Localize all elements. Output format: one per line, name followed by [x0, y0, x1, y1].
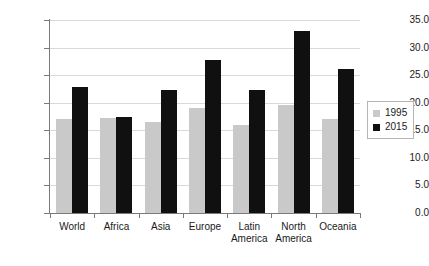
x-axis-category-label: Oceania — [316, 221, 360, 233]
x-axis-category-label-line: Europe — [183, 221, 227, 233]
x-tick-mark — [139, 213, 140, 218]
x-axis-category-label: World — [50, 221, 94, 233]
bar-2015-latin-america — [249, 90, 265, 213]
x-axis-category-label-line: Africa — [94, 221, 138, 233]
legend-item-1995: 1995 — [373, 106, 407, 120]
bar-2015-europe — [205, 60, 221, 213]
legend: 19952015 — [367, 101, 414, 139]
x-axis-category-label: Asia — [139, 221, 183, 233]
x-tick-mark — [50, 213, 51, 218]
x-tick-mark — [227, 213, 228, 218]
x-axis-category-label-line: World — [50, 221, 94, 233]
legend-swatch-icon — [373, 124, 380, 131]
bar-2015-asia — [161, 90, 177, 213]
bar-1995-asia — [145, 122, 161, 213]
legend-label: 1995 — [385, 108, 407, 118]
y-axis-tick-label: 35.0 — [387, 15, 429, 25]
x-axis-category-label-line: Oceania — [316, 221, 360, 233]
x-axis-category-label: NorthAmerica — [271, 221, 315, 245]
x-axis-category-label-line: America — [227, 233, 271, 245]
x-axis-category-label: LatinAmerica — [227, 221, 271, 245]
legend-swatch-icon — [373, 110, 380, 117]
x-axis-line — [49, 213, 361, 214]
y-axis-tick-label: 25.0 — [387, 70, 429, 80]
x-axis-category-label-line: Asia — [139, 221, 183, 233]
x-axis-category-label-line: North — [271, 221, 315, 233]
x-tick-mark — [94, 213, 95, 218]
bars — [50, 20, 360, 213]
y-axis-tick-label: 10.0 — [387, 153, 429, 163]
x-axis-category-label: Africa — [94, 221, 138, 233]
legend-label: 2015 — [385, 122, 407, 132]
x-tick-mark — [360, 213, 361, 218]
x-axis-category-label: Europe — [183, 221, 227, 233]
x-axis-category-label-line: America — [271, 233, 315, 245]
bar-2015-world — [72, 87, 88, 213]
legend-item-2015: 2015 — [373, 120, 407, 134]
bar-2015-north-america — [294, 31, 310, 213]
y-axis-tick-label: 0.0 — [387, 208, 429, 218]
bar-1995-world — [56, 119, 72, 213]
bar-2015-oceania — [338, 69, 354, 213]
bar-1995-africa — [100, 118, 116, 213]
x-tick-mark — [316, 213, 317, 218]
bar-chart: 0.05.010.015.020.025.030.035.0 WorldAfri… — [0, 0, 429, 266]
bar-1995-north-america — [278, 105, 294, 213]
x-axis-category-label-line: Latin — [227, 221, 271, 233]
plot-wrapper: 0.05.010.015.020.025.030.035.0 WorldAfri… — [0, 0, 429, 266]
x-tick-mark — [183, 213, 184, 218]
y-axis-tick-label: 5.0 — [387, 180, 429, 190]
bar-1995-latin-america — [233, 125, 249, 213]
bar-2015-africa — [116, 117, 132, 213]
bar-1995-europe — [189, 108, 205, 213]
x-tick-mark — [271, 213, 272, 218]
bar-1995-oceania — [322, 119, 338, 213]
y-axis-tick-label: 30.0 — [387, 43, 429, 53]
